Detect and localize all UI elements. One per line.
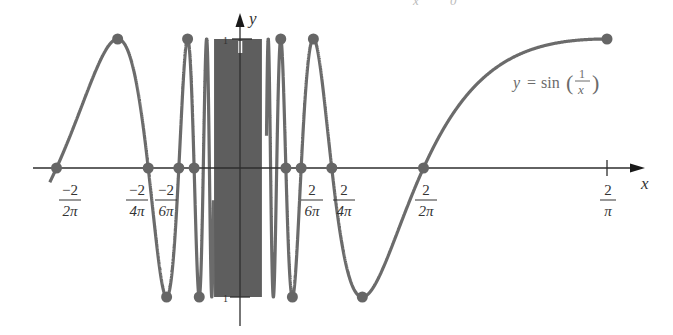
svg-text:−2: −2 (129, 182, 145, 198)
x-tick-label: 2 4π (333, 182, 355, 219)
svg-text:2: 2 (604, 182, 612, 198)
equation-right-paren: ) (592, 70, 599, 95)
equation-label: y = sin ( 1 x ) (511, 67, 599, 97)
equation-numerator: 1 (579, 67, 585, 81)
x-axis-arrow-icon (630, 164, 645, 173)
x-tick-label: −2 6π (155, 182, 177, 219)
plot-canvas: x 0 x y 1 1 −2 2π (0, 0, 673, 335)
svg-text:π: π (604, 203, 612, 219)
equation-equals: = (527, 74, 536, 91)
x-axis-label: x (640, 174, 649, 193)
equation-lhs: y (511, 74, 521, 92)
x-tick-label: −2 4π (126, 182, 148, 219)
svg-text:2: 2 (422, 182, 430, 198)
cropped-limit-fragment: x 0 (412, 0, 457, 8)
marked-point (280, 163, 291, 174)
marked-point (275, 34, 286, 45)
svg-text:2: 2 (308, 182, 316, 198)
marked-point (143, 163, 154, 174)
marked-point (173, 163, 184, 174)
equation-left-paren: ( (566, 70, 573, 95)
x-tick-label: −2 2π (59, 182, 81, 219)
marked-point (601, 34, 612, 45)
marked-point (308, 34, 319, 45)
x-tick-labels: −2 2π −2 4π −2 6π 2 6π 2 4π (59, 182, 616, 219)
svg-text:−2: −2 (158, 182, 174, 198)
svg-text:6π: 6π (158, 203, 174, 219)
svg-text:2: 2 (340, 182, 348, 198)
svg-text:2π: 2π (62, 203, 78, 219)
svg-text:6π: 6π (304, 203, 320, 219)
equation-func: sin (541, 74, 560, 91)
y-axis-label: y (247, 9, 257, 28)
svg-text:−2: −2 (62, 182, 78, 198)
marked-point (112, 34, 123, 45)
svg-text:4π: 4π (336, 203, 352, 219)
marked-point (161, 292, 172, 303)
marked-point (287, 292, 298, 303)
marked-point (189, 163, 200, 174)
y-tick-neg1-label: 1 (223, 293, 228, 304)
svg-text:4π: 4π (129, 203, 145, 219)
marked-point (418, 163, 429, 174)
marked-point (194, 292, 205, 303)
svg-text:2π: 2π (418, 203, 434, 219)
marked-point (296, 163, 307, 174)
x-tick-label: 2 2π (415, 182, 437, 219)
sin-inverse-x-graph: x 0 x y 1 1 −2 2π (0, 0, 673, 335)
marked-point (51, 163, 62, 174)
fragment-x: x (412, 0, 419, 8)
marked-point (182, 34, 193, 45)
y-tick-1-label: 1 (223, 35, 228, 46)
marked-point (357, 292, 368, 303)
fragment-zero: 0 (450, 0, 457, 8)
y-axis-arrow-icon (236, 13, 245, 27)
x-tick-label: 2 π (600, 182, 616, 219)
equation-denominator: x (577, 82, 584, 97)
marked-point (326, 163, 337, 174)
x-tick-label: 2 6π (301, 182, 323, 219)
